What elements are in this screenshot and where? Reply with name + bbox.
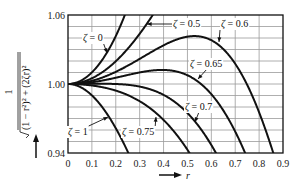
x-tick-label: 0.2 xyxy=(110,158,123,169)
arrowhead-icon xyxy=(104,48,108,53)
y-axis-label: 1 (1 − r²)² + (2ζr)² xyxy=(3,52,32,138)
curve-label: ζ = 0.5 xyxy=(173,18,200,30)
y-tick-label: 1.00 xyxy=(48,79,66,90)
curve-label: ζ = 1 xyxy=(68,126,88,138)
y-axis-arrow-icon xyxy=(33,134,39,158)
arrowhead-icon xyxy=(195,117,199,122)
x-tick-label: 0 xyxy=(66,158,71,169)
curve-label: ζ = 0.6 xyxy=(221,18,248,30)
x-axis-arrow-icon xyxy=(159,172,182,178)
x-tick-label: 0.6 xyxy=(205,158,218,169)
y-tick-label: 1.06 xyxy=(48,10,66,21)
curve-label: ζ = 0.7 xyxy=(185,101,212,113)
curve-label: ζ = 0.65 xyxy=(190,58,222,70)
x-axis-label: r xyxy=(186,170,190,181)
y-label-numerator: 1 xyxy=(3,90,14,95)
y-axis-ticks: 0.941.001.06 xyxy=(48,10,66,159)
x-tick-label: 0.1 xyxy=(86,158,99,169)
x-axis-ticks: 00.10.20.30.40.50.60.70.80.9 xyxy=(66,158,290,169)
y-label-denominator: (1 − r²)² + (2ζr)² xyxy=(20,66,32,130)
x-tick-label: 0.7 xyxy=(229,158,242,169)
y-tick-label: 0.94 xyxy=(48,148,66,159)
resonance-chart: 00.10.20.30.40.50.60.70.80.9 0.941.001.0… xyxy=(0,0,304,187)
curve-zeta-0-6 xyxy=(68,36,281,176)
curve-label: ζ = 0.75 xyxy=(122,126,154,138)
curve-label: ζ = 0 xyxy=(83,32,103,44)
x-tick-label: 0.9 xyxy=(277,158,290,169)
x-tick-label: 0.3 xyxy=(133,158,146,169)
x-tick-label: 0.5 xyxy=(181,158,194,169)
x-tick-label: 0.4 xyxy=(157,158,170,169)
x-tick-label: 0.8 xyxy=(253,158,266,169)
